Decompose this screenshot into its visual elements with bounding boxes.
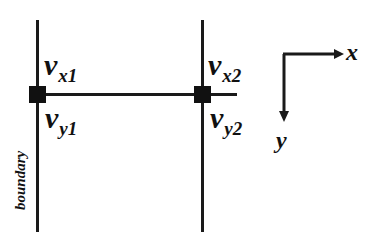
label-vx1-symbol: v — [44, 48, 57, 81]
boundary-label: boundary — [12, 151, 29, 210]
boundary-line — [36, 20, 39, 232]
label-vy2: vy2 — [210, 103, 242, 133]
label-vy1: vy1 — [45, 103, 77, 133]
axes-arrows-icon — [276, 48, 346, 128]
axis-x-label: x — [346, 40, 358, 64]
label-vy1-sub: y1 — [59, 118, 77, 139]
label-vy2-sub: y2 — [224, 118, 242, 139]
node-2 — [194, 86, 211, 103]
label-vx1: vx1 — [44, 50, 77, 80]
label-vx1-sub: x1 — [58, 65, 77, 86]
axis-y-label: y — [276, 128, 287, 152]
label-vx2-sub: x2 — [222, 65, 241, 86]
node-1 — [29, 86, 46, 103]
label-vy2-symbol: v — [210, 101, 223, 134]
label-vx2-symbol: v — [208, 48, 221, 81]
label-vx2: vx2 — [208, 50, 241, 80]
vertical-line-2 — [201, 20, 204, 232]
label-vy1-symbol: v — [45, 101, 58, 134]
